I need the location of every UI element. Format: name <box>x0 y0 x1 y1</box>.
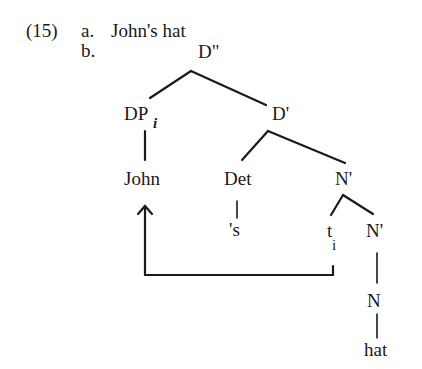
node-root: D" <box>198 42 219 61</box>
node-dp-index: i <box>153 116 157 131</box>
movement-arrow-path <box>145 207 333 275</box>
node-nbar-upper: N' <box>335 169 352 188</box>
node-dp: DP <box>124 104 148 123</box>
linguistics-example-page: (15) a. John's hat b. D" DP i D' John De… <box>0 0 422 369</box>
branch-dbar-to-nbar <box>268 131 345 163</box>
branch-nbar-to-trace <box>331 195 343 215</box>
node-john: John <box>124 169 160 188</box>
branch-nbar-to-nbar <box>343 195 373 214</box>
branch-root-to-dbar <box>191 71 266 105</box>
branch-dbar-to-det <box>242 131 268 160</box>
node-dbar: D' <box>272 104 289 123</box>
node-det: Det <box>224 169 251 188</box>
node-hat: hat <box>364 340 387 359</box>
node-n: N <box>367 291 381 310</box>
node-possessive: 's <box>229 220 240 239</box>
node-trace-index: i <box>332 238 336 253</box>
node-nbar-lower: N' <box>366 221 383 240</box>
branch-root-to-dp <box>150 71 191 98</box>
